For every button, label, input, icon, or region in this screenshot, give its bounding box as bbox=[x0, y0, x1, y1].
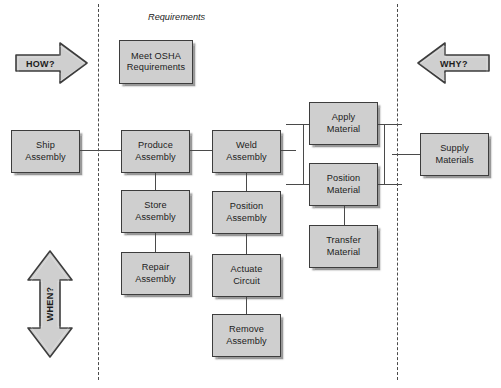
box-store-assembly[interactable]: Store Assembly bbox=[121, 190, 190, 233]
box-position-assembly[interactable]: Position Assembly bbox=[212, 191, 281, 234]
box-transfer-material-line2: Material bbox=[324, 247, 363, 259]
connector-position-assembly-to-actuate bbox=[246, 234, 247, 255]
box-repair-assembly[interactable]: Repair Assembly bbox=[121, 252, 190, 295]
box-position-assembly-line2: Assembly bbox=[224, 213, 269, 225]
why-arrow-label: WHY? bbox=[440, 59, 468, 69]
box-weld-assembly[interactable]: Weld Assembly bbox=[212, 130, 281, 173]
connector-produce-to-weld bbox=[190, 150, 213, 151]
connector-weld-to-position-assembly bbox=[246, 172, 247, 192]
left-boundary-dashed-line bbox=[98, 4, 99, 380]
box-transfer-material-line1: Transfer bbox=[324, 235, 363, 247]
requirements-label: Requirements bbox=[148, 12, 205, 22]
box-supply-materials-line1: Supply bbox=[433, 143, 475, 155]
connector-actuate-to-remove bbox=[246, 296, 247, 315]
box-remove-assembly[interactable]: Remove Assembly bbox=[212, 314, 281, 357]
box-supply-materials[interactable]: Supply Materials bbox=[420, 133, 489, 176]
box-store-assembly-line1: Store bbox=[133, 200, 178, 212]
branch-bracket-weld-outputs bbox=[286, 124, 304, 185]
box-remove-assembly-line2: Assembly bbox=[224, 336, 269, 348]
box-ship-assembly-line2: Assembly bbox=[23, 152, 68, 164]
when-arrow-label: WHEN? bbox=[45, 287, 55, 322]
box-meet-osha-line1: Meet OSHA bbox=[125, 51, 187, 63]
box-produce-assembly-line1: Produce bbox=[133, 140, 178, 152]
how-arrow-label: HOW? bbox=[26, 59, 55, 69]
box-actuate-circuit[interactable]: Actuate Circuit bbox=[212, 254, 281, 297]
box-position-material[interactable]: Position Material bbox=[309, 163, 378, 206]
box-produce-assembly[interactable]: Produce Assembly bbox=[121, 130, 190, 173]
box-meet-osha[interactable]: Meet OSHA Requirements bbox=[119, 40, 193, 84]
connector-branch-to-position-material bbox=[296, 184, 310, 185]
box-store-assembly-line2: Assembly bbox=[133, 212, 178, 224]
box-repair-assembly-line1: Repair bbox=[133, 262, 178, 274]
box-position-material-line2: Material bbox=[325, 185, 363, 197]
box-repair-assembly-line2: Assembly bbox=[133, 274, 178, 286]
box-supply-materials-line2: Materials bbox=[433, 155, 475, 167]
box-position-assembly-line1: Position bbox=[224, 201, 269, 213]
connector-produce-to-store bbox=[155, 172, 156, 191]
box-weld-assembly-line1: Weld bbox=[224, 140, 269, 152]
box-apply-material-line1: Apply bbox=[325, 112, 362, 124]
box-transfer-material[interactable]: Transfer Material bbox=[309, 225, 378, 268]
box-weld-assembly-line2: Assembly bbox=[224, 152, 269, 164]
box-meet-osha-line2: Requirements bbox=[125, 62, 187, 74]
box-ship-assembly[interactable]: Ship Assembly bbox=[11, 130, 80, 173]
box-actuate-circuit-line1: Actuate bbox=[229, 264, 265, 276]
box-apply-material-line2: Material bbox=[325, 124, 362, 136]
diagram-canvas: Requirements Meet OSHA Requirements Ship… bbox=[0, 0, 501, 388]
connector-position-material-to-transfer bbox=[344, 206, 345, 226]
box-apply-material[interactable]: Apply Material bbox=[309, 102, 378, 145]
box-remove-assembly-line1: Remove bbox=[224, 324, 269, 336]
connector-branch-to-apply-material bbox=[296, 124, 310, 125]
box-ship-assembly-line1: Ship bbox=[23, 140, 68, 152]
connector-store-to-repair bbox=[155, 233, 156, 253]
connector-ship-to-produce bbox=[80, 150, 122, 151]
connector-merge-to-supply-materials bbox=[392, 154, 420, 155]
box-produce-assembly-line2: Assembly bbox=[133, 152, 178, 164]
box-actuate-circuit-line2: Circuit bbox=[229, 276, 265, 288]
right-boundary-dashed-line bbox=[397, 4, 398, 380]
box-position-material-line1: Position bbox=[325, 173, 363, 185]
